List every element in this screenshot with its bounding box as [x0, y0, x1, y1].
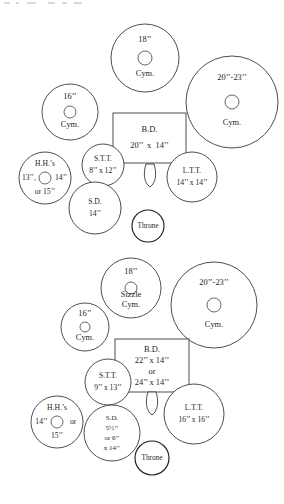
svg-text:8’’ x 12’’: 8’’ x 12’’	[89, 166, 116, 175]
cymbal-bell-icon	[64, 106, 76, 118]
svg-text:Cym.: Cym.	[61, 120, 79, 129]
svg-text:or: or	[70, 417, 77, 426]
hi-hat-bell-icon	[39, 172, 51, 184]
svg-text:or: or	[149, 367, 156, 376]
diagram-canvas: 18’’Cym.16’’Cym.20’’-23’’Cym.B.D.20’’ x …	[0, 0, 284, 504]
piece-small-tom-tom[interactable]: S.T.T.8’’ x 12’’	[82, 144, 124, 186]
svg-text:16’’: 16’’	[63, 92, 76, 101]
svg-text:16’’: 16’’	[78, 309, 91, 318]
piece-label: Throne	[142, 454, 163, 462]
cymbal-bell-icon	[225, 95, 239, 109]
svg-text:B.D.: B.D.	[144, 345, 160, 354]
svg-text:14’’: 14’’	[55, 173, 67, 182]
svg-text:14’’: 14’’	[89, 209, 101, 218]
svg-text:20’’ x 14’’: 20’’ x 14’’	[130, 141, 169, 150]
svg-text:16’’ x 16’’: 16’’ x 16’’	[178, 415, 209, 424]
scan-artifact	[62, 2, 67, 4]
bass-drum-outline	[113, 113, 186, 163]
svg-text:14’’ x 14’’: 14’’ x 14’’	[176, 178, 207, 187]
scan-artifact	[48, 2, 55, 4]
piece-18-inch-sizzle-cymbal[interactable]: 18’’SizzleCym.	[101, 258, 161, 318]
svg-text:Cym.: Cym.	[122, 300, 140, 309]
piece-hi-hats[interactable]: H.H.’s14’’or15’’	[31, 396, 83, 448]
kit-kit-top: 18’’Cym.16’’Cym.20’’-23’’Cym.B.D.20’’ x …	[19, 24, 278, 242]
svg-text:H.H.’s: H.H.’s	[35, 159, 55, 168]
svg-text:15’’: 15’’	[51, 431, 63, 440]
svg-text:13’’,: 13’’,	[22, 173, 36, 182]
scan-artifact	[16, 2, 19, 4]
cymbal-bell-icon	[80, 322, 90, 332]
kit-kit-bottom: 18’’SizzleCym.16’’Cym.20’’-23’’Cym.B.D.2…	[31, 258, 257, 475]
piece-bass-drum[interactable]: B.D.20’’ x 14’’	[113, 113, 186, 163]
svg-text:L.T.T.: L.T.T.	[185, 403, 204, 412]
svg-text:22’’ x 14’’: 22’’ x 14’’	[135, 356, 169, 365]
piece-18-inch-cymbal[interactable]: 18’’Cym.	[111, 24, 179, 92]
svg-text:Cym.: Cym.	[205, 320, 223, 329]
cymbal-bell-icon	[138, 51, 152, 65]
piece-hi-hats[interactable]: H.H.’s13’’,14’’or 15’’	[19, 152, 71, 204]
piece-20-23-inch-cymbal[interactable]: 20’’-23’’Cym.	[171, 262, 257, 348]
svg-text:Cym.: Cym.	[223, 118, 241, 127]
pedal-shape	[146, 392, 157, 415]
svg-text:20’’-23’’: 20’’-23’’	[199, 278, 228, 287]
svg-text:H.H.’s: H.H.’s	[47, 403, 67, 412]
piece-throne[interactable]: Throne	[132, 210, 164, 242]
svg-text:S.T.T.: S.T.T.	[94, 154, 112, 163]
svg-text:S.D.: S.D.	[106, 414, 119, 422]
svg-text:18’’: 18’’	[138, 35, 151, 44]
svg-text:5½’’: 5½’’	[106, 424, 119, 432]
piece-small-tom-tom[interactable]: S.T.T.9’’ x 13’’	[85, 359, 131, 405]
pedal-shape	[144, 164, 155, 187]
svg-text:Cym.: Cym.	[136, 69, 154, 78]
piece-bass-drum-pedal[interactable]	[144, 164, 155, 187]
piece-large-tom-tom[interactable]: L.T.T.16’’ x 16’’	[164, 384, 224, 444]
svg-text:or 15’’: or 15’’	[35, 187, 55, 196]
piece-20-23-inch-cymbal[interactable]: 20’’-23’’Cym.	[186, 56, 278, 148]
svg-text:or 6’’: or 6’’	[104, 434, 119, 442]
piece-label: Throne	[138, 222, 159, 230]
piece-snare-drum[interactable]: S.D.14’’	[69, 182, 121, 234]
svg-text:20’’-23’’: 20’’-23’’	[217, 73, 246, 82]
piece-large-tom-tom[interactable]: L.T.T.14’’ x 14’’	[167, 152, 217, 202]
svg-text:24’’ x 14’’: 24’’ x 14’’	[135, 378, 169, 387]
svg-text:18’’: 18’’	[124, 267, 137, 276]
svg-text:L.T.T.: L.T.T.	[183, 166, 202, 175]
svg-text:B.D.: B.D.	[142, 125, 158, 134]
hi-hat-bell-icon	[51, 416, 63, 428]
piece-throne[interactable]: Throne	[135, 441, 169, 475]
svg-text:S.T.T.: S.T.T.	[99, 371, 117, 380]
svg-text:9’’ x 13’’: 9’’ x 13’’	[94, 383, 121, 392]
cymbal-bell-icon	[207, 298, 221, 312]
scan-artifact	[4, 2, 10, 4]
svg-text:14’’: 14’’	[35, 417, 47, 426]
svg-text:Sizzle: Sizzle	[121, 290, 142, 299]
piece-snare-drum[interactable]: S.D.5½’’or 6’’x 14’’	[84, 405, 140, 461]
svg-text:Cym.: Cym.	[76, 333, 94, 342]
piece-16-inch-cymbal[interactable]: 16’’Cym.	[42, 84, 98, 140]
svg-text:S.D.: S.D.	[88, 197, 102, 206]
scan-artifact	[27, 2, 36, 4]
svg-text:x 14’’: x 14’’	[104, 444, 120, 452]
scan-artifact	[74, 2, 82, 4]
piece-16-inch-cymbal[interactable]: 16’’Cym.	[61, 303, 109, 351]
svg-text:Throne: Throne	[142, 454, 163, 462]
piece-bass-drum-pedal[interactable]	[146, 392, 157, 415]
drum-kit-diagram: 18’’Cym.16’’Cym.20’’-23’’Cym.B.D.20’’ x …	[0, 0, 284, 504]
svg-text:Throne: Throne	[138, 222, 159, 230]
